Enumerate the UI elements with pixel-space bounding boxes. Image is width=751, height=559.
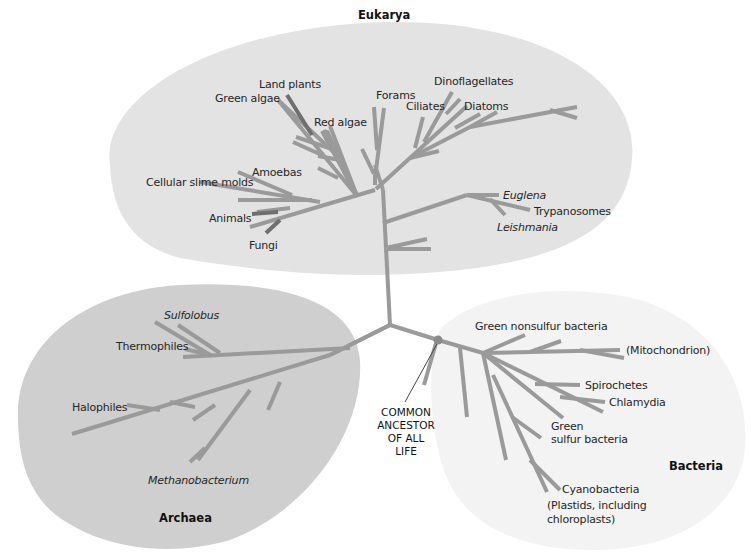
taxon-sulfolobus: Sulfolobus — [164, 309, 219, 322]
taxon-fungi: Fungi — [249, 239, 278, 252]
taxon-green-nonsulfur-bacteria: Green nonsulfur bacteria — [475, 320, 607, 333]
taxon-halophiles: Halophiles — [72, 401, 127, 414]
taxon-chlamydia: Chlamydia — [609, 396, 666, 409]
taxon-land-plants: Land plants — [259, 78, 321, 91]
tree-graphic — [0, 0, 751, 559]
taxon-leishmania: Leishmania — [497, 221, 558, 234]
taxon-green-sulfur-line2: sulfur bacteria — [551, 433, 628, 446]
taxon-cellular-slime-molds: Cellular slime molds — [146, 176, 253, 189]
ancestor-line-2: ANCESTOR — [366, 419, 446, 432]
taxon-red-algae: Red algae — [314, 116, 367, 129]
taxon-green-algae: Green algae — [215, 92, 280, 105]
taxon-cyanobacteria: Cyanobacteria — [562, 483, 639, 496]
taxon-thermophiles: Thermophiles — [116, 340, 188, 353]
taxon-euglena: Euglena — [503, 189, 546, 202]
taxon-mitochondrion: (Mitochondrion) — [626, 344, 710, 357]
bacteria-label: Bacteria — [669, 459, 723, 473]
ancestor-line-1: COMMON — [366, 406, 446, 419]
tree-of-life-diagram: Eukarya Archaea Bacteria Land plants Gre… — [0, 0, 751, 559]
ancestor-line-4: LIFE — [366, 445, 446, 458]
taxon-animals: Animals — [209, 212, 251, 225]
taxon-plastids-line1: (Plastids, including — [547, 499, 647, 512]
archaea-label: Archaea — [159, 511, 212, 525]
taxon-amoebas: Amoebas — [252, 166, 302, 179]
eukarya-label: Eukarya — [358, 8, 410, 22]
ancestor-line-3: OF ALL — [366, 432, 446, 445]
taxon-spirochetes: Spirochetes — [585, 379, 647, 392]
taxon-diatoms: Diatoms — [464, 100, 508, 113]
taxon-ciliates: Ciliates — [406, 100, 445, 113]
taxon-dinoflagellates: Dinoflagellates — [434, 75, 513, 88]
taxon-green-sulfur-line1: Green — [551, 420, 583, 433]
taxon-methanobacterium: Methanobacterium — [148, 474, 249, 487]
eukarya-region — [109, 22, 632, 275]
common-ancestor-node — [434, 336, 443, 345]
common-ancestor-label: COMMON ANCESTOR OF ALL LIFE — [366, 406, 446, 458]
archaea-region — [18, 284, 360, 549]
taxon-plastids-line2: chloroplasts) — [547, 513, 615, 526]
taxon-trypanosomes: Trypanosomes — [534, 205, 611, 218]
